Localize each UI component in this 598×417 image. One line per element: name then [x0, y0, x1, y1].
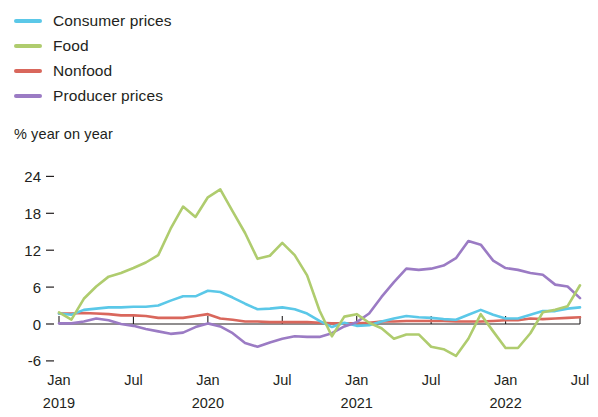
x-tick-label: Jul [571, 372, 590, 388]
x-tick-label: Jan [494, 372, 517, 388]
x-year-label: 2020 [192, 395, 224, 411]
x-tick-label: Jul [273, 372, 292, 388]
x-tick-label: Jan [47, 372, 70, 388]
series-lines [59, 189, 580, 356]
y-tick-label: 24 [24, 168, 41, 185]
y-tick-label: 18 [24, 205, 41, 222]
x-axis-labels: Jan2019JulJan2020JulJan2021JulJan2022Jul [43, 372, 589, 411]
y-tick-label: 6 [33, 279, 41, 296]
chart-svg: 24181260-6 Jan2019JulJan2020JulJan2021Ju… [0, 0, 598, 417]
x-year-label: 2021 [341, 395, 373, 411]
series-line-food [59, 189, 580, 356]
y-tick-label: 12 [24, 242, 41, 259]
plot-area: 24181260-6 Jan2019JulJan2020JulJan2021Ju… [0, 0, 598, 417]
x-tick-label: Jan [345, 372, 368, 388]
y-tick-label: 0 [33, 316, 41, 333]
x-tick-label: Jul [422, 372, 441, 388]
series-line-producer-prices [59, 241, 580, 347]
chart-container: Consumer prices Food Nonfood Producer pr… [0, 0, 598, 417]
y-tick-label: -6 [28, 352, 41, 369]
x-tick-label: Jan [196, 372, 219, 388]
x-year-label: 2022 [489, 395, 521, 411]
x-tick-label: Jul [124, 372, 143, 388]
x-year-label: 2019 [43, 395, 75, 411]
y-axis-ticks: 24181260-6 [24, 168, 54, 370]
